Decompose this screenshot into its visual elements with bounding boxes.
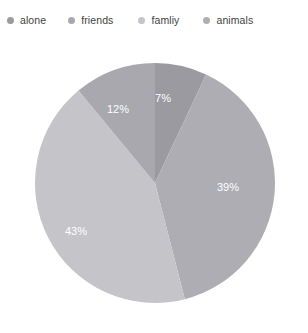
pie-chart-figure: alone friends famliy animals 7%39%43%12% [0,0,308,333]
pie-slice-label-animals: 39% [217,181,239,193]
legend-item-friends[interactable]: friends [68,0,113,40]
pie-slice-label-friends: 12% [107,103,129,115]
legend-label-alone: alone [20,15,46,26]
legend-swatch-dot-icon [203,17,210,24]
legend-item-animals[interactable]: animals [203,0,253,40]
legend-item-alone[interactable]: alone [7,0,46,40]
legend-swatch-dot-icon [68,17,75,24]
pie-plot-area: 7%39%43%12% [35,48,275,318]
legend-label-friends: friends [81,15,113,26]
legend-label-animals: animals [216,15,253,26]
legend-item-famliy[interactable]: famliy [138,0,179,40]
legend-swatch-dot-icon [7,17,14,24]
pie-svg: 7%39%43%12% [35,48,275,318]
legend-label-famliy: famliy [151,15,179,26]
legend-swatch-dot-icon [138,17,145,24]
pie-slice-label-famliy: 43% [65,225,87,237]
chart-legend: alone friends famliy animals [0,0,308,40]
pie-slice-label-alone: 7% [155,92,171,104]
